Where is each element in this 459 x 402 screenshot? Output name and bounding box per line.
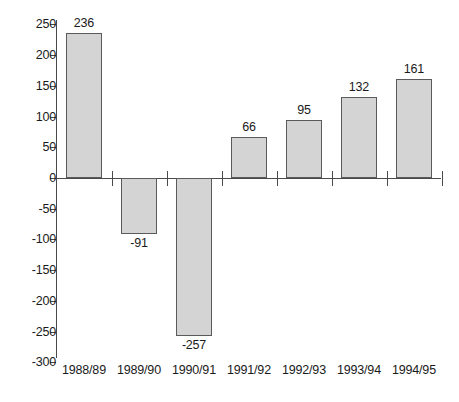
x-axis-tick xyxy=(112,171,113,186)
x-axis-category-label: 1994/95 xyxy=(382,363,446,377)
x-axis-tick xyxy=(442,171,443,186)
y-axis-tick-label: 200 xyxy=(12,49,56,61)
y-axis-tick-label: 100 xyxy=(12,111,56,123)
bar xyxy=(121,178,157,234)
y-axis-tick-label: -150 xyxy=(12,264,56,276)
bar-chart: 250200150100500-50-100-150-200-250-300 2… xyxy=(0,0,459,402)
bar-value-label: 161 xyxy=(384,63,444,76)
y-axis-line xyxy=(56,20,57,358)
x-axis-tick xyxy=(167,171,168,186)
y-axis-tick-label: 250 xyxy=(12,18,56,30)
x-axis-tick xyxy=(332,171,333,186)
bar-value-label: 132 xyxy=(329,81,389,94)
x-axis-tick xyxy=(277,171,278,186)
bar-value-label: 66 xyxy=(219,121,279,134)
y-axis-tick-label: -250 xyxy=(12,326,56,338)
x-axis-tick xyxy=(222,171,223,186)
bar xyxy=(286,120,322,178)
y-axis-tick-label: -100 xyxy=(12,233,56,245)
y-axis-tick-label: 0 xyxy=(12,172,56,184)
y-axis-tick-label: 50 xyxy=(12,141,56,153)
y-axis-tick-label: 150 xyxy=(12,80,56,92)
bar xyxy=(66,33,102,178)
zero-axis-line xyxy=(56,178,441,179)
bar-value-label: 95 xyxy=(274,104,334,117)
bar-value-label: -257 xyxy=(164,339,224,352)
bar-value-label: -91 xyxy=(109,237,169,250)
bar xyxy=(341,97,377,178)
x-axis-tick xyxy=(387,171,388,186)
y-axis-tick-label: -50 xyxy=(12,203,56,215)
bar-value-label: 236 xyxy=(54,17,114,30)
y-axis-tick-label: -200 xyxy=(12,295,56,307)
bar xyxy=(396,79,432,178)
bar xyxy=(176,178,212,336)
bar xyxy=(231,137,267,178)
y-axis-tick-label: -300 xyxy=(12,356,56,368)
